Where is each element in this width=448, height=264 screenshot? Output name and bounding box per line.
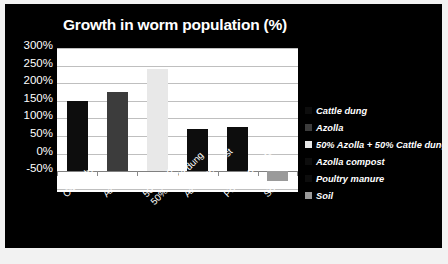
y-axis-tick: 250% (5, 58, 53, 69)
legend-swatch-icon (305, 141, 312, 148)
y-axis-tick: 300% (5, 40, 53, 51)
legend-swatch-icon (305, 158, 312, 165)
x-axis-tick (297, 171, 298, 176)
y-axis-tick: 150% (5, 93, 53, 104)
legend-label: Cattle dung (316, 106, 367, 116)
y-axis-tick: -50% (5, 163, 53, 174)
chart-legend: Cattle dungAzolla50% Azolla + 50% Cattle… (305, 102, 442, 204)
bar-0 (67, 101, 88, 171)
x-axis-tick (137, 171, 138, 176)
legend-item-5[interactable]: Soil (305, 187, 442, 204)
x-axis-tick (57, 171, 58, 176)
legend-swatch-icon (305, 175, 312, 182)
legend-swatch-icon (305, 124, 312, 131)
legend-swatch-icon (305, 107, 312, 114)
bar-1 (107, 92, 128, 171)
legend-item-1[interactable]: Azolla (305, 119, 442, 136)
bar-2 (147, 69, 168, 172)
legend-label: Soil (316, 191, 333, 201)
legend-item-0[interactable]: Cattle dung (305, 102, 442, 119)
chart-panel: Growth in worm population (%) 300% 250% … (5, 4, 442, 248)
legend-label: 50% Azolla + 50% Cattle dung (316, 140, 442, 150)
legend-item-4[interactable]: Poultry manure (305, 170, 442, 187)
chart-title: Growth in worm population (%) (5, 16, 345, 34)
x-axis-tick (258, 171, 259, 176)
x-axis-tick (218, 171, 219, 176)
legend-item-2[interactable]: 50% Azolla + 50% Cattle dung (305, 136, 442, 153)
legend-label: Azolla compost (316, 157, 385, 167)
y-axis-tick: 50% (5, 128, 53, 139)
legend-swatch-icon (305, 192, 312, 199)
y-axis-tick: 200% (5, 75, 53, 86)
x-axis-tick (97, 171, 98, 176)
y-axis-tick: 0% (5, 146, 53, 157)
legend-label: Azolla (316, 123, 343, 133)
legend-item-3[interactable]: Azolla compost (305, 153, 442, 170)
y-axis-tick: 100% (5, 110, 53, 121)
chart-page: Growth in worm population (%) 300% 250% … (0, 0, 448, 264)
legend-label: Poultry manure (316, 174, 384, 184)
x-axis-labels: Cattle dungAzolla50% Azolla +50% Cattle … (5, 190, 345, 248)
